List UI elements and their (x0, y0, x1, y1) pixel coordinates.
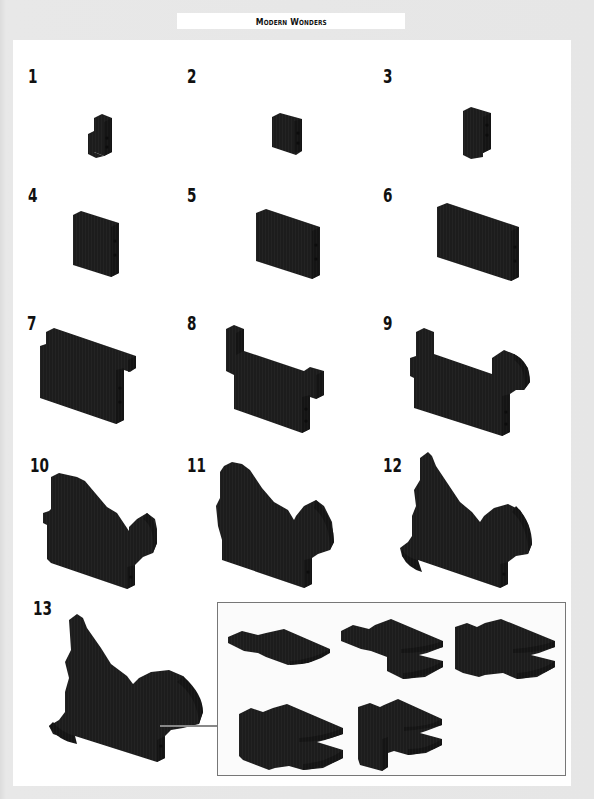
step-number: 6 (383, 185, 392, 205)
step-number: 8 (187, 313, 196, 333)
brick-build-step-1-icon (86, 114, 116, 159)
brick-build-step-9-icon (410, 328, 532, 438)
brick-build-step-11-icon (214, 462, 334, 590)
brick-build-step-7-icon (40, 328, 138, 424)
sub-assembly-callout (217, 602, 566, 776)
step-number: 10 (30, 455, 49, 475)
step-number: 1 (28, 66, 37, 86)
brick-build-step-8-icon (226, 325, 330, 435)
step-number: 5 (187, 185, 196, 205)
step-number: 4 (28, 185, 37, 205)
step-number: 7 (27, 313, 36, 333)
brick-build-step-3-icon (461, 105, 493, 161)
step-number: 11 (187, 455, 206, 475)
step-number: 9 (383, 313, 392, 333)
page-title: Modern Wonders (255, 16, 326, 27)
sub-assembly-3-icon (455, 619, 559, 683)
step-number: 3 (383, 66, 392, 86)
sub-assembly-5-icon (358, 699, 444, 771)
brick-build-step-4-icon (73, 211, 121, 279)
sub-assembly-2-icon (341, 619, 447, 681)
brick-build-step-13-icon (47, 612, 207, 762)
brick-build-step-2-icon (270, 111, 304, 155)
brick-build-step-5-icon (256, 209, 322, 281)
sub-assembly-4-icon (239, 704, 347, 772)
brick-build-step-12-icon (398, 450, 534, 590)
step-number: 2 (187, 66, 196, 86)
sub-assembly-1-icon (228, 627, 332, 667)
callout-connector-line (160, 725, 217, 727)
header-banner: Modern Wonders (177, 13, 405, 29)
brick-build-step-10-icon (43, 473, 157, 589)
brick-build-step-6-icon (437, 203, 521, 283)
